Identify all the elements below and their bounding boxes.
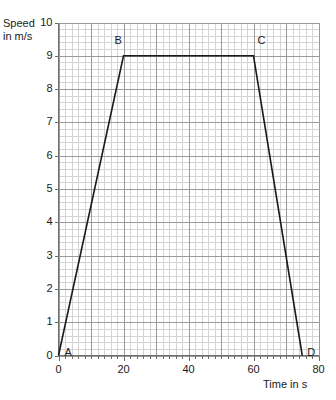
point-label-d: D <box>307 346 315 358</box>
y-tick-label-5: 5 <box>33 182 53 194</box>
y-axis-title-line2: in m/s <box>3 30 35 43</box>
y-tick-label-0: 0 <box>33 349 53 361</box>
speed-time-line <box>59 56 303 356</box>
x-tick-label-40: 40 <box>174 363 204 375</box>
y-tick-label-2: 2 <box>33 282 53 294</box>
x-tick-label-60: 60 <box>239 363 269 375</box>
point-label-a: A <box>65 346 72 358</box>
y-tick-label-10: 10 <box>33 16 53 28</box>
x-tick-label-80: 80 <box>304 363 334 375</box>
y-tick-label-9: 9 <box>33 49 53 61</box>
x-axis-title: Time in s <box>263 378 307 391</box>
y-tick-label-6: 6 <box>33 149 53 161</box>
y-tick-label-7: 7 <box>33 115 53 127</box>
point-label-b: B <box>115 34 122 46</box>
y-tick-label-1: 1 <box>33 315 53 327</box>
y-tick-label-8: 8 <box>33 82 53 94</box>
point-label-c: C <box>258 34 266 46</box>
y-axis-title-line1: Speed <box>3 17 35 29</box>
x-tick-label-0: 0 <box>44 363 74 375</box>
data-line-series <box>59 56 303 356</box>
y-tick-label-4: 4 <box>33 215 53 227</box>
y-tick-label-3: 3 <box>33 249 53 261</box>
x-tick-label-20: 20 <box>109 363 139 375</box>
y-axis-title: Speedin m/s <box>3 17 35 43</box>
speed-time-graph: Speedin m/s Time in s 012345678910020406… <box>0 0 336 400</box>
